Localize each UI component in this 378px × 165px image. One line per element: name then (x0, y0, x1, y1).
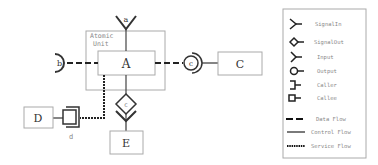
legend-label-signalout: SignalOut (314, 39, 344, 46)
legend-label-control-flow: Control Flow (311, 129, 351, 135)
node-d-label: D (34, 112, 43, 125)
legend-callee-icon (289, 95, 295, 101)
port-d-label: d (69, 133, 73, 141)
legend-output-icon (291, 68, 298, 75)
legend-label-caller: Caller (317, 82, 338, 88)
callee-icon (63, 110, 76, 124)
node-c-label: C (236, 58, 244, 71)
node-a-label: A (121, 57, 131, 71)
legend: SignalIn SignalOut Input Output Caller C… (283, 9, 366, 158)
legend-label-callee: Callee (317, 95, 337, 101)
legend-label-data-flow: Data Flow (316, 116, 346, 122)
service-flow-a-d (80, 75, 104, 118)
legend-label-output: Output (317, 68, 337, 75)
port-c-label: c (189, 60, 193, 68)
port-c-bottom-label: c (124, 101, 128, 109)
atomic-unit-label: Atomic (90, 32, 114, 40)
legend-label-input: Input (317, 54, 334, 61)
node-e-label: E (122, 137, 130, 150)
component-diagram: Atomic Unit A a b c C c E d D SignalIn (0, 0, 378, 165)
port-b-label: b (57, 59, 62, 68)
atomic-unit-label-2: Unit (93, 40, 109, 48)
legend-label-signalin: SignalIn (315, 21, 342, 28)
port-a-label: a (124, 15, 129, 24)
legend-label-service-flow: Service Flow (311, 143, 351, 149)
